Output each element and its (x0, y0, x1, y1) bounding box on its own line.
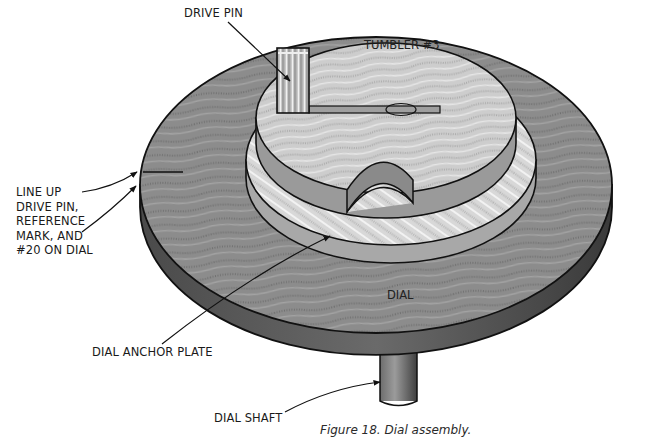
dial-label: DIAL (387, 288, 414, 302)
dial-shaft-leader (285, 382, 380, 412)
dial-shaft-label: DIAL SHAFT (214, 411, 282, 425)
tumbler-label: TUMBLER #3 (364, 38, 440, 52)
drive-pin-arm (309, 106, 440, 113)
figure-caption: Figure 18. Dial assembly. (320, 423, 471, 437)
dial-anchor-plate-label: DIAL ANCHOR PLATE (92, 345, 213, 359)
line-up-callout: LINE UP DRIVE PIN, REFERENCE MARK, AND #… (16, 185, 93, 258)
tumbler-3 (256, 43, 516, 218)
dial-assembly-figure: DRIVE PIN TUMBLER #3 LINE UP DRIVE PIN, … (0, 0, 669, 442)
drive-pin (277, 48, 309, 113)
drive-pin-label: DRIVE PIN (184, 6, 243, 20)
dial-assembly-illustration (0, 0, 669, 442)
